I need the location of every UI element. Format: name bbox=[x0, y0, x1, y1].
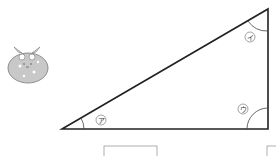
angle-arc-a bbox=[81, 118, 84, 129]
answer-box-1[interactable] bbox=[104, 146, 157, 156]
answer-box-2[interactable] bbox=[267, 146, 276, 156]
angle-arc-u bbox=[247, 108, 268, 129]
svg-text:ア: ア bbox=[98, 117, 105, 125]
triangle bbox=[62, 9, 268, 129]
angle-label-i: イ bbox=[245, 32, 255, 42]
angle-arc-i bbox=[248, 21, 268, 31]
svg-text:ウ: ウ bbox=[240, 106, 247, 114]
angle-label-u: ウ bbox=[238, 104, 248, 114]
svg-text:イ: イ bbox=[247, 34, 254, 42]
angle-label-a: ア bbox=[96, 115, 106, 125]
mascot-icon bbox=[8, 47, 48, 83]
triangle-diagram: ア イ ウ bbox=[0, 0, 276, 156]
